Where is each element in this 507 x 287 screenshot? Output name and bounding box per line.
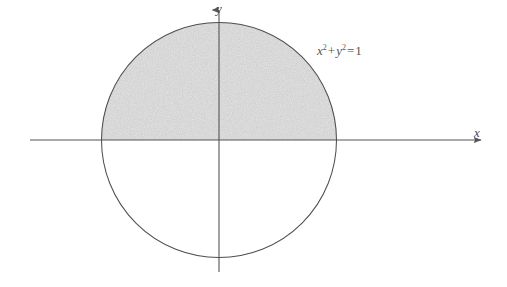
equation-equals-operator: = [346,43,355,58]
equation-plus-operator: + [327,43,336,58]
x-axis-label: x [474,126,480,139]
y-axis-label: y [216,2,222,15]
figure-canvas: y x x2+y2=1 [0,0,507,287]
unit-circle-plot [0,0,507,287]
circle-equation-label: x2+y2=1 [317,44,362,57]
equation-right-hand-side: 1 [355,43,362,58]
